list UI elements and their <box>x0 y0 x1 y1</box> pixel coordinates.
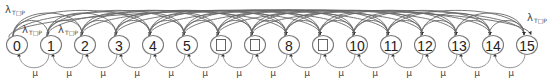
node-circle <box>211 36 232 55</box>
node-label: 8 <box>285 38 293 54</box>
state-node-3: 3 <box>109 36 130 55</box>
state-node-10: 10 <box>347 36 368 55</box>
mu-label: μ <box>338 68 344 78</box>
mu-label: μ <box>440 68 446 78</box>
backward-transition-arcs <box>19 54 525 68</box>
lambda-subscript: T□P <box>28 29 42 36</box>
node-label: 3 <box>115 38 123 54</box>
state-node-9 <box>313 36 334 55</box>
mu-label: μ <box>372 68 378 78</box>
arc-15-to-14 <box>495 54 525 68</box>
arc-13-to-12 <box>427 54 457 68</box>
node-label: 10 <box>349 38 365 54</box>
mu-label: μ <box>304 68 310 78</box>
state-node-5: 5 <box>177 36 198 55</box>
mu-label: μ <box>100 68 106 78</box>
lambda-label: λ <box>5 4 11 15</box>
arc-6-to-5 <box>189 54 219 68</box>
arc-1-to-0 <box>19 54 49 68</box>
state-node-12: 12 <box>415 36 436 55</box>
node-label: 0 <box>13 38 21 54</box>
state-node-7 <box>245 36 266 55</box>
state-node-6 <box>211 36 232 55</box>
mu-label: μ <box>168 68 174 78</box>
markov-chain-diagram: 0123458101112131415 μμμμμμμμμμμμμμμλT□Pλ… <box>0 0 557 82</box>
node-label: 1 <box>47 38 55 54</box>
state-node-0: 0 <box>7 36 28 55</box>
lambda-subscript: T□P <box>11 9 25 16</box>
arc-7-to-6 <box>223 54 253 68</box>
state-node-1: 1 <box>41 36 62 55</box>
lambda-label: λ <box>22 24 28 35</box>
mu-label: μ <box>202 68 208 78</box>
mu-label: μ <box>32 68 38 78</box>
arc-14-to-13 <box>461 54 491 68</box>
mu-label: μ <box>134 68 140 78</box>
arc-10-to-9 <box>325 54 355 68</box>
arc-2-to-1 <box>53 54 83 68</box>
arc-4-to-3 <box>121 54 151 68</box>
node-label: 11 <box>384 38 399 54</box>
state-node-4: 4 <box>143 36 164 55</box>
arc-11-to-10 <box>359 54 389 68</box>
state-node-2: 2 <box>75 36 96 55</box>
arc-3-to-2 <box>87 54 117 68</box>
arc-5-to-4 <box>155 54 185 68</box>
node-circle <box>245 36 266 55</box>
node-label: 2 <box>81 38 89 54</box>
mu-label: μ <box>406 68 412 78</box>
node-circle <box>313 36 334 55</box>
forward-transition-arcs <box>9 10 531 38</box>
mu-label: μ <box>508 68 514 78</box>
node-label: 4 <box>149 38 157 54</box>
arc-8-to-7 <box>257 54 287 68</box>
arc-12-to-11 <box>393 54 423 68</box>
node-label: 14 <box>485 38 501 54</box>
lambda-subscript: T□P <box>64 29 78 36</box>
node-label: 12 <box>417 38 433 54</box>
state-node-14: 14 <box>483 36 504 55</box>
state-node-8: 8 <box>279 36 300 55</box>
lambda-label: λ <box>58 24 64 35</box>
state-node-13: 13 <box>449 36 470 55</box>
state-nodes: 0123458101112131415 <box>7 36 538 55</box>
state-node-15: 15 <box>517 36 538 55</box>
mu-label: μ <box>474 68 480 78</box>
mu-label: μ <box>236 68 242 78</box>
mu-label: μ <box>270 68 276 78</box>
arc-9-to-8 <box>291 54 321 68</box>
mu-label: μ <box>66 68 72 78</box>
state-node-11: 11 <box>381 36 402 55</box>
node-label: 5 <box>183 38 191 54</box>
node-label: 13 <box>451 38 467 54</box>
lambda-label: λ <box>527 12 533 23</box>
node-label: 15 <box>519 38 535 54</box>
lambda-subscript: T□P <box>533 17 547 24</box>
